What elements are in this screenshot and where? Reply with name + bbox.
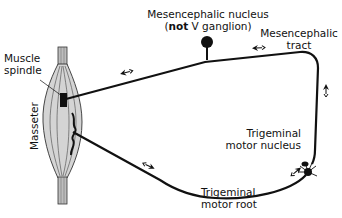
label-mesencephalic-tract-line1: Mesencephalic [254, 27, 342, 39]
arrow-icon-afferent-3 [323, 84, 329, 97]
label-trigeminal-motor-root: Trigeminal motor root [201, 186, 257, 210]
label-trigeminal-motor-nucleus: Trigeminal motor nucleus [216, 127, 301, 151]
label-muscle-spindle: Muscle spindle [4, 52, 42, 76]
masseter-muscle [43, 47, 82, 204]
mesencephalic-nucleus-cell [201, 36, 213, 60]
label-trigeminal-motor-nucleus-line2: motor nucleus [216, 139, 301, 151]
label-trigeminal-motor-nucleus-line1: Trigeminal [216, 127, 301, 139]
arrow-icon-afferent-1 [119, 68, 133, 77]
label-mesencephalic-tract-line2: tract [254, 39, 342, 51]
label-trigeminal-motor-root-line2: motor root [201, 198, 257, 210]
label-mesencephalic-tract: Mesencephalic tract [254, 27, 342, 51]
emphasis-not: not [169, 20, 189, 32]
lower-tendon [58, 177, 67, 204]
label-trigeminal-motor-root-line1: Trigeminal [201, 186, 257, 198]
label-muscle-spindle-line1: Muscle [4, 52, 42, 64]
label-masseter: Masseter [28, 102, 40, 150]
label-mesencephalic-nucleus-line1: Mesencephalic nucleus [118, 8, 298, 20]
label-muscle-spindle-line2: spindle [4, 64, 42, 76]
